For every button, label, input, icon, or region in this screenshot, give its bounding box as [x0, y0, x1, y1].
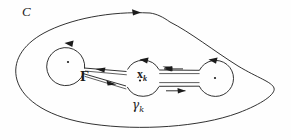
- right-cut-channel: [159, 66, 199, 93]
- right-small-circle: [199, 60, 233, 96]
- left-circle-arrowhead: [65, 41, 74, 47]
- Gamma-cut-upper-line-inner: [85, 71, 127, 75]
- right-circle-arrowhead: [209, 58, 218, 64]
- contour-figure: C Γ xk γk: [0, 0, 291, 140]
- right-circle-center-dot: [214, 77, 216, 79]
- label-gamma-k: γk: [132, 99, 144, 114]
- left-small-circle-group: [47, 41, 85, 86]
- Gamma-cut-channel: [83, 68, 127, 89]
- right-small-circle-group: [199, 58, 233, 97]
- right-cut-lower-arrowhead: [178, 88, 186, 93]
- label-outer-contour-C: C: [22, 5, 31, 18]
- Gamma-cut-lower-line: [83, 74, 126, 86]
- gamma-k-circle-lower: [127, 87, 159, 97]
- left-small-circle: [47, 48, 85, 86]
- label-Gamma-cut: Γ: [80, 71, 89, 83]
- left-circle-center-dot: [67, 61, 69, 63]
- Gamma-cut-upper-line: [84, 68, 126, 72]
- label-x-k: xk: [137, 68, 147, 83]
- Gamma-cut-lower-line-inner: [85, 76, 127, 89]
- label-gamma-k-subscript: k: [139, 105, 144, 114]
- outer-contour-arrowhead: [132, 9, 141, 15]
- label-x-k-subscript: k: [143, 74, 147, 83]
